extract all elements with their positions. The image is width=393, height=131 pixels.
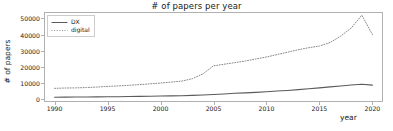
- x-axis-ticks: 1990199520002005201020152020: [44, 102, 383, 118]
- plot-lines: [44, 12, 383, 102]
- x-tick-label: 1995: [100, 105, 116, 112]
- legend-label: digital: [71, 26, 90, 34]
- legend-label: DX: [71, 18, 80, 26]
- x-tick-label: 2010: [259, 105, 275, 112]
- x-tick-label: 2000: [153, 105, 169, 112]
- x-tick-label: 2005: [206, 105, 222, 112]
- chart-legend: DXdigital: [47, 15, 95, 37]
- legend-item-digital: digital: [51, 26, 90, 34]
- plot-area: DXdigital: [44, 12, 383, 102]
- chart-figure: # of papers per year # of papers 0100002…: [0, 0, 393, 131]
- legend-swatch-dx-icon: [51, 19, 68, 26]
- x-tick-label: 1990: [47, 105, 63, 112]
- legend-item-dx: DX: [51, 18, 90, 26]
- x-tick-label: 2015: [312, 105, 328, 112]
- chart-title: # of papers per year: [0, 1, 393, 11]
- x-axis-label: year: [340, 113, 357, 122]
- x-tick-label: 2020: [365, 105, 381, 112]
- y-axis-tick-marks: [0, 12, 44, 102]
- series-line-digital: [55, 15, 373, 88]
- legend-swatch-digital-icon: [51, 27, 68, 34]
